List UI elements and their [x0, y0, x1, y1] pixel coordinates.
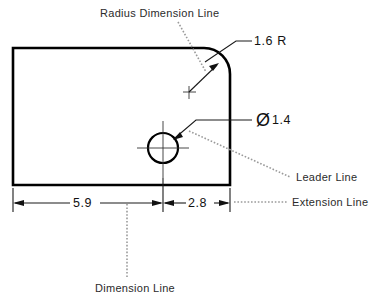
dimension-value-left: 5.9 — [73, 196, 92, 210]
engineering-drawing-canvas: 1.6 R Ø 1.4 5.9 2.8 Radius Dimension Lin… — [0, 0, 375, 306]
dimension-arrow-left-outer — [13, 200, 24, 206]
label-extension-line: Extension Line — [292, 196, 368, 208]
radius-value-leader — [205, 41, 252, 62]
diameter-leader-line — [175, 120, 252, 138]
diameter-leader-arrowhead — [173, 132, 183, 140]
callout-leader-line — [189, 131, 290, 177]
dimension-arrow-right-inner — [163, 200, 174, 206]
label-dimension-line: Dimension Line — [95, 282, 175, 294]
diameter-value-text: 1.4 — [272, 113, 291, 127]
radius-value-text: 1.6 R — [254, 34, 287, 48]
dimension-value-right: 2.8 — [188, 196, 207, 210]
radius-dimension-arrowhead — [209, 63, 219, 71]
label-radius-dimension-line: Radius Dimension Line — [100, 7, 219, 19]
dimension-arrow-right-outer — [219, 200, 230, 206]
dimension-arrow-left-inner — [152, 200, 163, 206]
diameter-symbol: Ø — [256, 110, 271, 130]
label-leader-line: Leader Line — [296, 171, 357, 183]
plate-outline — [13, 48, 230, 185]
